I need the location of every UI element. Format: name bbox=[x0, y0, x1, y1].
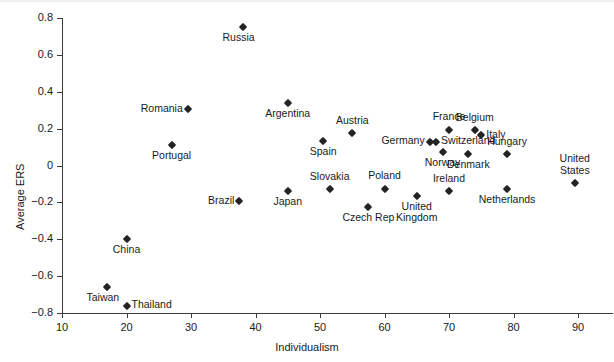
y-tick-label: −0.4 bbox=[9, 233, 53, 244]
point-marker bbox=[438, 147, 446, 155]
point-marker bbox=[571, 179, 579, 187]
y-tick-label: −0.6 bbox=[9, 270, 53, 281]
point-marker bbox=[284, 99, 292, 107]
point-label: Romania bbox=[63, 103, 183, 115]
x-tick-label: 10 bbox=[42, 322, 82, 333]
x-tick-label: 60 bbox=[365, 322, 405, 333]
point-label: Ireland bbox=[389, 173, 509, 185]
x-tick bbox=[385, 313, 386, 318]
x-tick-label: 90 bbox=[558, 322, 598, 333]
point-marker bbox=[413, 192, 421, 200]
point-label: Japan bbox=[228, 196, 348, 208]
figure-top-edge bbox=[0, 0, 614, 2]
point-marker bbox=[284, 187, 292, 195]
x-tick bbox=[62, 313, 63, 318]
point-label: Brazil bbox=[114, 195, 234, 207]
point-label: Spain bbox=[263, 146, 383, 158]
point-label: Denmark bbox=[408, 159, 528, 171]
point-marker bbox=[167, 141, 175, 149]
x-tick-label: 20 bbox=[107, 322, 147, 333]
point-marker bbox=[503, 185, 511, 193]
x-axis-line bbox=[62, 313, 613, 314]
point-label: Taiwan bbox=[0, 292, 119, 304]
point-marker bbox=[122, 235, 130, 243]
y-tick bbox=[57, 18, 62, 19]
y-tick-label: −0.2 bbox=[9, 196, 53, 207]
y-tick bbox=[57, 55, 62, 56]
x-tick bbox=[256, 313, 257, 318]
y-tick bbox=[57, 239, 62, 240]
x-tick bbox=[449, 313, 450, 318]
x-tick-label: 50 bbox=[300, 322, 340, 333]
y-axis-line bbox=[62, 18, 63, 314]
y-tick bbox=[57, 129, 62, 130]
y-tick-label: 0.6 bbox=[9, 49, 53, 60]
point-label: Germany bbox=[305, 135, 425, 147]
x-tick-label: 70 bbox=[429, 322, 469, 333]
x-tick bbox=[578, 313, 579, 318]
point-marker bbox=[503, 150, 511, 158]
x-tick bbox=[127, 313, 128, 318]
point-marker bbox=[122, 301, 130, 309]
point-label: Thailand bbox=[132, 299, 252, 311]
point-marker bbox=[103, 283, 111, 291]
point-marker bbox=[325, 185, 333, 193]
y-tick bbox=[57, 92, 62, 93]
y-tick-label: 0 bbox=[9, 160, 53, 171]
y-tick bbox=[57, 202, 62, 203]
x-axis-title: Individualism bbox=[0, 341, 614, 353]
point-label: China bbox=[67, 244, 187, 256]
point-label: Belgium bbox=[415, 112, 535, 124]
point-marker bbox=[432, 137, 440, 145]
y-tick bbox=[57, 313, 62, 314]
x-tick bbox=[191, 313, 192, 318]
y-tick bbox=[57, 276, 62, 277]
y-tick bbox=[57, 166, 62, 167]
point-label: Hungary bbox=[447, 136, 567, 148]
x-tick-label: 40 bbox=[236, 322, 276, 333]
y-tick-label: −0.8 bbox=[9, 307, 53, 318]
point-marker bbox=[425, 137, 433, 145]
point-label: United States bbox=[515, 153, 614, 176]
scatter-plot-figure: TaiwanThailandChinaPortugalRomaniaBrazil… bbox=[0, 0, 614, 362]
point-label: Portugal bbox=[112, 150, 232, 162]
x-tick bbox=[320, 313, 321, 318]
point-marker bbox=[184, 105, 192, 113]
point-label: Netherlands bbox=[447, 194, 567, 206]
point-label: Russia bbox=[135, 32, 255, 44]
point-marker bbox=[238, 23, 246, 31]
x-tick bbox=[514, 313, 515, 318]
y-tick-label: 0.2 bbox=[9, 123, 53, 134]
x-tick-label: 30 bbox=[171, 322, 211, 333]
y-tick-label: 0.4 bbox=[9, 86, 53, 97]
point-marker bbox=[380, 184, 388, 192]
x-tick-label: 80 bbox=[494, 322, 534, 333]
y-tick-label: 0.8 bbox=[9, 12, 53, 23]
point-marker bbox=[445, 125, 453, 133]
